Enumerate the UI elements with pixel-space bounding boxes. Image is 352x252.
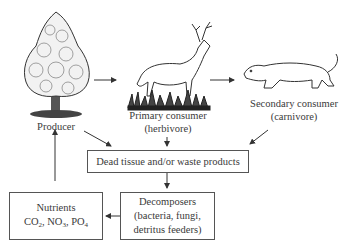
cougar-icon: [244, 54, 338, 88]
nutrients-title: Nutrients: [36, 201, 75, 215]
grass-icon: [128, 90, 210, 110]
decomposers-box: Decomposers (bacteria, fungi, detritus f…: [120, 192, 215, 240]
nutrients-box: Nutrients CO2, NO3, PO4: [9, 192, 103, 240]
po4-sub: 4: [85, 221, 89, 229]
producer-label: Producer: [28, 120, 84, 133]
decomposers-title: Decomposers: [139, 195, 196, 209]
primary-consumer-label: Primary consumer: [118, 109, 218, 122]
primary-consumer-sub: (herbivore): [118, 122, 218, 135]
deer-icon: [137, 22, 212, 96]
no3-label: NO: [47, 216, 62, 227]
dead-tissue-box: Dead tissue and/or waste products: [87, 150, 249, 173]
tree-icon: [24, 12, 89, 118]
co2-label: CO: [24, 216, 39, 227]
co2-sub: 2: [38, 221, 42, 229]
secondary-consumer-sub: (carnivore): [236, 110, 352, 123]
nutrients-formula: CO2, NO3, PO4: [24, 215, 88, 232]
dead-tissue-label: Dead tissue and/or waste products: [96, 155, 239, 169]
secondary-consumer-label: Secondary consumer: [236, 97, 352, 110]
po4-label: PO: [71, 216, 84, 227]
decomposers-line3: detritus feeders): [134, 223, 202, 237]
decomposers-line2: (bacteria, fungi,: [134, 209, 201, 223]
no3-sub: 3: [62, 221, 66, 229]
